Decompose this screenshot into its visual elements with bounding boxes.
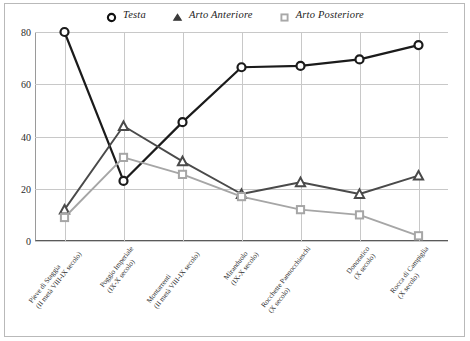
data-point bbox=[356, 211, 363, 218]
series-testa bbox=[61, 28, 423, 185]
data-point bbox=[297, 62, 305, 70]
series-arto-posteriore bbox=[61, 154, 422, 240]
data-point bbox=[238, 193, 245, 200]
data-point bbox=[414, 171, 423, 180]
data-point bbox=[179, 171, 186, 178]
data-point bbox=[356, 55, 364, 63]
y-axis-tick-labels: 020406080 bbox=[0, 32, 31, 241]
x-tick-label: Rocca di Campiglia(X secolo) bbox=[388, 245, 437, 301]
legend-label-testa: Testa bbox=[123, 9, 146, 20]
square-open-icon bbox=[279, 9, 290, 20]
legend-label-arto-anteriore: Arto Anteriore bbox=[189, 9, 253, 20]
y-tick-label: 20 bbox=[21, 183, 31, 194]
plot-area bbox=[35, 32, 448, 241]
triangle-filled-icon bbox=[172, 9, 183, 20]
x-tick-label: Miranduolo(IX-X secolo) bbox=[222, 245, 260, 287]
y-tick-label: 80 bbox=[21, 27, 31, 38]
data-series-layer bbox=[35, 32, 448, 241]
y-tick-label: 40 bbox=[21, 131, 31, 142]
data-point bbox=[61, 214, 68, 221]
circle-open-icon bbox=[106, 9, 117, 20]
data-point bbox=[120, 154, 127, 161]
x-tick-label: Montarrenti(II metà VIII-IX secolo) bbox=[145, 245, 201, 310]
data-point bbox=[296, 178, 305, 187]
data-point bbox=[179, 118, 187, 126]
chart-legend: Testa Arto Anteriore Arto Posteriore bbox=[0, 6, 470, 22]
legend-item-arto-anteriore: Arto Anteriore bbox=[172, 9, 253, 20]
data-point bbox=[238, 63, 246, 71]
data-point bbox=[415, 41, 423, 49]
data-point bbox=[355, 189, 364, 198]
x-axis-tick-labels: Pieve di Staggia(II metà VIII-IX secolo)… bbox=[35, 241, 448, 341]
legend-item-testa: Testa bbox=[106, 9, 146, 20]
x-tick-label: Pieve di Staggia(II metà VIII-IX secolo) bbox=[27, 245, 83, 310]
data-point bbox=[297, 206, 304, 213]
legend-label-arto-posteriore: Arto Posteriore bbox=[296, 9, 364, 20]
series-line bbox=[65, 32, 419, 181]
data-point bbox=[61, 28, 69, 36]
data-point bbox=[120, 177, 128, 185]
legend-item-arto-posteriore: Arto Posteriore bbox=[279, 9, 364, 20]
data-point bbox=[415, 232, 422, 239]
data-point bbox=[119, 121, 128, 130]
x-tick-label: Poggio Imperiale(IX-X secolo) bbox=[98, 245, 142, 295]
x-tick-label: Donoratico(X secolo) bbox=[345, 245, 378, 281]
data-point bbox=[178, 157, 187, 166]
chart-figure: Testa Arto Anteriore Arto Posteriore 020… bbox=[0, 0, 470, 341]
y-tick-label: 0 bbox=[26, 236, 31, 247]
y-tick-label: 60 bbox=[21, 79, 31, 90]
x-tick-label: Rocchette Pannocchieschi(X secolo) bbox=[259, 245, 319, 315]
